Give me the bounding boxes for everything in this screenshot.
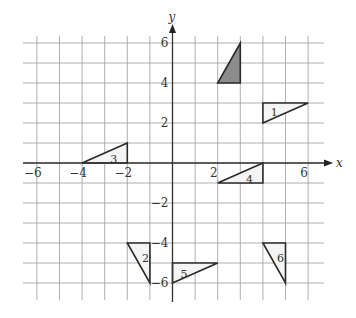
coordinate-grid-diagram: 123456 x y −6−4−226642−2−4−6 bbox=[0, 0, 356, 318]
y-tick-label: 4 bbox=[161, 76, 169, 90]
grid-plot: 123456 x y −6−4−226642−2−4−6 bbox=[0, 0, 356, 318]
triangle-label: 4 bbox=[246, 173, 253, 186]
x-tick-label: 2 bbox=[210, 166, 218, 180]
x-axis-arrow-icon bbox=[324, 160, 333, 167]
y-tick-label: 6 bbox=[161, 36, 169, 50]
y-axis-arrow-icon bbox=[169, 24, 176, 33]
triangle-label: 5 bbox=[180, 268, 187, 281]
x-axis-label: x bbox=[336, 156, 343, 170]
x-tick-label: 6 bbox=[300, 166, 308, 180]
y-tick-label: −6 bbox=[151, 276, 169, 290]
x-tick-label: −4 bbox=[69, 166, 87, 180]
y-tick-label: −2 bbox=[151, 196, 169, 210]
y-axis-label: y bbox=[168, 10, 176, 24]
y-tick-label: 2 bbox=[161, 116, 169, 130]
triangle-label: 3 bbox=[110, 153, 117, 166]
x-tick-label: −2 bbox=[114, 166, 132, 180]
triangle-label: 2 bbox=[142, 252, 149, 265]
triangle-label: 1 bbox=[271, 106, 278, 119]
axes: x y bbox=[23, 10, 343, 302]
y-tick-label: −4 bbox=[151, 236, 169, 250]
x-tick-label: −6 bbox=[24, 166, 42, 180]
triangle-label: 6 bbox=[277, 252, 284, 265]
